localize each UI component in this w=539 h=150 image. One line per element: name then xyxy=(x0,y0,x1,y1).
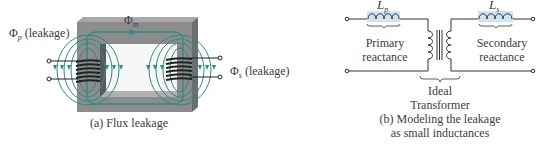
ideal-transformer-line2: Transformer xyxy=(400,98,480,112)
mutual-flux-subscript: m xyxy=(133,20,139,29)
caption-b: (b) Modeling the leakage as small induct… xyxy=(370,112,510,140)
caption-b-line2: as small inductances xyxy=(370,126,510,140)
lp-subscript: p xyxy=(384,5,388,14)
primary-leakage-label: Φp (leakage) xyxy=(9,26,69,45)
ideal-transformer xyxy=(420,30,460,82)
caption-a: (a) Flux leakage xyxy=(90,116,168,130)
primary-leakage-symbol: Φ xyxy=(9,26,18,40)
ideal-transformer-line1: Ideal xyxy=(400,84,480,98)
secondary-terminals xyxy=(218,56,222,79)
primary-leakage-text: (leakage) xyxy=(25,26,70,40)
secondary-reactance-line1: Secondary xyxy=(470,36,534,50)
caption-b-line1: (b) Modeling the leakage xyxy=(370,112,510,126)
primary-reactance-label: Primary reactance xyxy=(355,36,415,64)
secondary-leakage-subscript: s xyxy=(239,71,242,80)
mutual-flux-symbol: Φ xyxy=(124,13,133,27)
primary-leakage-subscript: p xyxy=(18,33,22,42)
ideal-transformer-label: Ideal Transformer xyxy=(400,84,480,112)
secondary-leakage-symbol: Φ xyxy=(230,64,239,78)
secondary-reactance-line2: reactance xyxy=(470,50,534,64)
secondary-leakage-text: (leakage) xyxy=(245,64,290,78)
secondary-leakage-label: Φs (leakage) xyxy=(230,64,290,83)
ls-subscript: s xyxy=(496,5,499,14)
primary-terminals xyxy=(47,59,51,81)
primary-reactance-line2: reactance xyxy=(355,50,415,64)
mutual-flux-label: Φm xyxy=(124,13,139,32)
ls-label: Ls xyxy=(489,0,499,17)
secondary-reactance-label: Secondary reactance xyxy=(470,36,534,64)
primary-reactance-line1: Primary xyxy=(355,36,415,50)
lp-label: Lp xyxy=(377,0,388,17)
